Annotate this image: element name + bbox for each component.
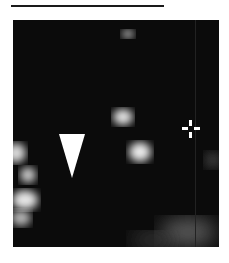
scale-bar: [11, 5, 164, 7]
crosshair-marker: [182, 120, 200, 138]
cell-spot-middle-upper: [113, 109, 133, 125]
cell-cluster-left-3: [13, 190, 38, 210]
diffuse-signal-right: [205, 152, 219, 168]
arrowhead-marker: [59, 134, 85, 178]
cell-cluster-left-2: [20, 167, 36, 183]
cell-cluster-left-1: [13, 143, 26, 163]
cell-cluster-left-4: [13, 210, 31, 226]
cell-spot-top: [122, 30, 134, 38]
cell-spot-middle-lower: [129, 142, 151, 162]
